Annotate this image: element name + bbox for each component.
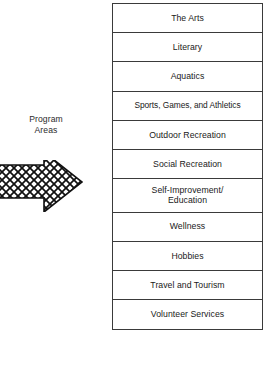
- program-areas-label: Program Areas: [8, 114, 84, 136]
- program-areas-diagram: Program Areas The Arts Literary Aquatics: [0, 0, 270, 371]
- program-area-label: Literary: [173, 42, 202, 52]
- program-area-row[interactable]: Sports, Games, and Athletics: [113, 92, 262, 121]
- program-areas-label-line-2: Areas: [8, 125, 84, 136]
- program-area-row[interactable]: Outdoor Recreation: [113, 121, 262, 150]
- program-area-label: Volunteer Services: [151, 309, 224, 319]
- right-arrow-crosshatch-icon: [0, 160, 88, 212]
- program-area-label: Self-Improvement/ Education: [152, 185, 224, 206]
- program-area-label: The Arts: [171, 13, 204, 23]
- program-area-row[interactable]: Wellness: [113, 213, 262, 242]
- program-area-row[interactable]: Volunteer Services: [113, 300, 262, 329]
- program-area-row[interactable]: Travel and Tourism: [113, 271, 262, 300]
- program-area-label: Travel and Tourism: [150, 280, 224, 290]
- program-area-row[interactable]: Aquatics: [113, 62, 262, 91]
- program-area-label: Social Recreation: [153, 159, 222, 169]
- program-area-label: Aquatics: [171, 71, 205, 81]
- program-area-row[interactable]: The Arts: [113, 4, 262, 33]
- program-area-label: Hobbies: [171, 251, 203, 261]
- program-area-row[interactable]: Social Recreation: [113, 150, 262, 179]
- program-area-row[interactable]: Self-Improvement/ Education: [113, 179, 262, 212]
- program-areas-list: The Arts Literary Aquatics Sports, Games…: [112, 3, 263, 330]
- program-area-label: Outdoor Recreation: [149, 130, 226, 140]
- program-area-label: Wellness: [170, 221, 206, 231]
- program-area-row[interactable]: Literary: [113, 33, 262, 62]
- program-area-label: Sports, Games, and Athletics: [134, 100, 240, 110]
- program-area-row[interactable]: Hobbies: [113, 242, 262, 271]
- program-areas-label-line-1: Program: [8, 114, 84, 125]
